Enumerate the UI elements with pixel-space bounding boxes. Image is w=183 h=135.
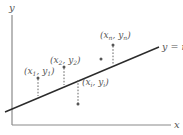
data-point-k [100,58,103,61]
point-label-n: (xn, yn) [100,30,131,41]
data-point-2 [63,66,66,69]
point-label-2: (x2, y2) [50,55,81,66]
point-label-1: (x1, y1) [24,66,55,77]
x-axis-label: x [174,119,180,130]
fit-line-label: y = mx + b [161,41,183,52]
data-point-1 [37,77,40,80]
data-point-i [77,103,80,106]
point-label-i: (xi, yi) [82,77,109,88]
y-axis-label: y [8,2,15,13]
regression-diagram: y x y = mx + b (x1, y1) (x2, y2) (xi, yi… [0,0,183,135]
data-point-n [112,44,115,47]
